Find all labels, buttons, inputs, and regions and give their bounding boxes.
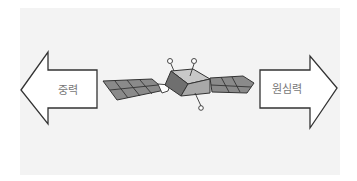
right-solar-panel — [210, 76, 254, 93]
diagram-canvas: 중력 원심력 — [0, 0, 357, 181]
left-solar-panel — [103, 79, 170, 100]
centrifugal-label: 원심력 — [272, 83, 302, 96]
centrifugal-arrow: 원심력 — [260, 56, 337, 128]
gravity-arrow: 중력 — [21, 52, 97, 124]
satellite-body — [165, 69, 210, 96]
satellite-icon — [103, 59, 254, 111]
gravity-label: 중력 — [58, 84, 78, 97]
